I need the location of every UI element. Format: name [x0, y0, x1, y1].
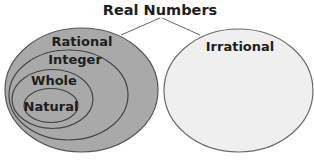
- connector-line-irrational: [162, 18, 200, 35]
- whole-label: Whole: [31, 73, 77, 88]
- diagram-title: Real Numbers: [103, 2, 217, 18]
- real-numbers-diagram: Real Numbers Rational Integer Whole Natu…: [0, 0, 314, 161]
- irrational-label: Irrational: [206, 39, 275, 54]
- rational-label: Rational: [52, 34, 113, 49]
- connector-line-rational: [121, 18, 160, 35]
- natural-label: Natural: [24, 99, 79, 114]
- integer-label: Integer: [48, 52, 102, 67]
